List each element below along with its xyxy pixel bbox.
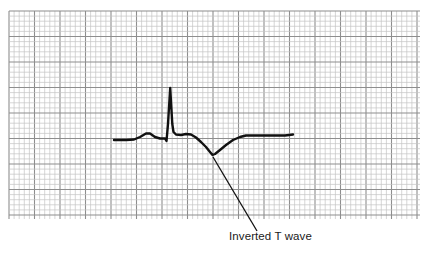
ecg-figure [0, 0, 428, 255]
annotation-leader-line [213, 157, 257, 231]
inverted-t-wave-label: Inverted T wave [229, 230, 312, 242]
ecg-trace [114, 88, 293, 155]
ecg-grid [9, 11, 420, 219]
